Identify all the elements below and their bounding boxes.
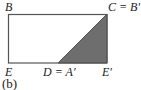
diagram: B C = B′ E D = A′ E′ (b) — [0, 0, 141, 90]
label-e-prime: E′ — [101, 65, 112, 79]
label-b: B — [5, 0, 13, 14]
figure-caption: (b) — [2, 76, 17, 90]
label-d-equals-a-prime: D = A′ — [42, 65, 76, 79]
label-c-equals-b-prime: C = B′ — [108, 0, 140, 14]
